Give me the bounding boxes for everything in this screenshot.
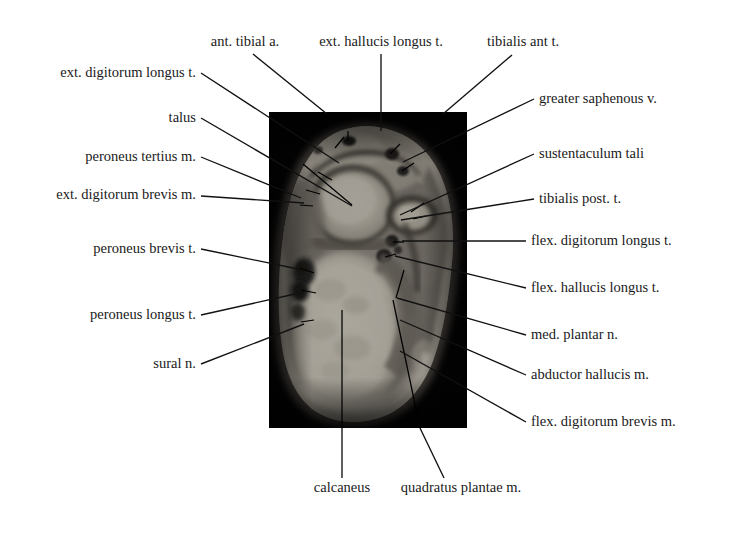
- label-flex-digitorum-brevis-m: flex. digitorum brevis m.: [531, 413, 676, 429]
- label-peroneus-tertius-m: peroneus tertius m.: [85, 148, 196, 164]
- label-flex-hallucis-longus-t: flex. hallucis longus t.: [531, 279, 659, 295]
- leader-tibialis-ant-t: [443, 55, 512, 114]
- label-ext-digitorum-brevis-m: ext. digitorum brevis m.: [56, 186, 196, 202]
- label-abductor-hallucis-m: abductor hallucis m.: [531, 366, 649, 382]
- label-ext-hallucis-longus-t: ext. hallucis longus t.: [319, 33, 443, 49]
- label-flex-digitorum-longus-t: flex. digitorum longus t.: [531, 232, 672, 248]
- label-calcaneus: calcaneus: [314, 479, 371, 495]
- label-sural-n: sural n.: [153, 355, 196, 371]
- label-tibialis-post-t: tibialis post. t.: [539, 190, 621, 206]
- label-peroneus-longus-t: peroneus longus t.: [90, 306, 196, 322]
- leader-ant-tibial-a: [253, 54, 327, 114]
- label-ext-digitorum-longus-t: ext. digitorum longus t.: [60, 64, 196, 80]
- label-tibialis-ant-t: tibialis ant t.: [487, 33, 559, 49]
- leader-quadratus-plantae-m: [420, 428, 444, 478]
- label-ant-tibial-a: ant. tibial a.: [211, 33, 279, 49]
- figure-page: ant. tibial a. ext. hallucis longus t. t…: [0, 0, 732, 537]
- mri-content: [269, 112, 467, 428]
- label-med-plantar-n: med. plantar n.: [531, 326, 618, 342]
- label-peroneus-brevis-t: peroneus brevis t.: [93, 240, 196, 256]
- label-quadratus-plantae-m: quadratus plantae m.: [401, 479, 521, 495]
- anatomy-figure: ant. tibial a. ext. hallucis longus t. t…: [0, 0, 732, 537]
- label-talus: talus: [169, 109, 197, 125]
- label-greater-saphenous-v: greater saphenous v.: [539, 90, 657, 106]
- mri-panel: [269, 112, 467, 428]
- label-sustentaculum-tali: sustentaculum tali: [539, 145, 644, 161]
